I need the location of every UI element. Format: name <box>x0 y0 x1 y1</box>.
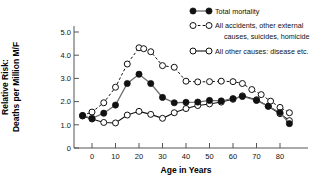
data-point <box>230 79 236 85</box>
data-point <box>148 80 154 86</box>
x-tick-label: 70 <box>252 152 260 161</box>
data-point <box>171 100 177 106</box>
y-tick-label: 1.0 <box>61 121 71 130</box>
data-point <box>112 102 118 108</box>
data-point <box>195 79 201 85</box>
data-point <box>239 81 245 87</box>
data-point <box>160 115 166 121</box>
x-tick-label: 10 <box>111 152 119 161</box>
data-point <box>136 108 142 114</box>
data-point <box>258 92 264 98</box>
x-tick-label: 30 <box>158 152 166 161</box>
legend-open-circle-marker <box>190 23 196 29</box>
legend-open-circle-marker <box>206 23 212 29</box>
data-point <box>239 93 245 99</box>
x-tick-label: 0 <box>90 152 94 161</box>
data-point <box>101 119 107 125</box>
data-point <box>230 95 236 101</box>
x-tick-label: 50 <box>205 152 213 161</box>
data-point <box>253 97 259 103</box>
data-point <box>183 78 189 84</box>
data-point <box>101 110 107 116</box>
data-point <box>124 80 130 86</box>
x-tick-label: 40 <box>182 152 190 161</box>
legend-label-line2: causes, suicides, homicide <box>224 32 310 41</box>
data-point <box>148 49 154 55</box>
legend-open-circle-marker <box>206 48 212 54</box>
data-point <box>286 110 292 116</box>
chart-root: 01.02.03.04.05.001020304050607080Age in … <box>0 0 322 186</box>
data-point <box>124 61 130 67</box>
data-point <box>113 120 119 126</box>
x-tick-label: 60 <box>229 152 237 161</box>
y-axis-ticks: 01.02.03.04.05.0 <box>61 28 79 153</box>
data-point <box>171 64 177 70</box>
data-point <box>206 97 212 103</box>
y-axis-title: Relative Risk:Deaths per Million M/F <box>0 42 21 132</box>
legend: Total mortalityAll accidents, other exte… <box>190 7 310 56</box>
data-point <box>218 78 224 84</box>
legend-item-1[interactable]: Total mortality <box>190 7 260 16</box>
legend-filled-circle-marker <box>190 8 196 14</box>
data-point <box>113 84 119 90</box>
y-tick-label: 4.0 <box>61 51 71 60</box>
y-tick-label: 0 <box>67 144 71 153</box>
legend-label: All other causes: disease etc. <box>215 47 309 56</box>
data-point <box>101 100 107 106</box>
data-point <box>159 94 165 100</box>
data-point <box>160 63 166 69</box>
legend-item-3[interactable]: All other causes: disease etc. <box>190 47 309 56</box>
data-point <box>124 112 130 118</box>
data-point <box>195 99 201 105</box>
legend-item-2[interactable]: All accidents, other externalcauses, sui… <box>190 21 310 40</box>
data-point <box>171 110 177 116</box>
data-point <box>277 109 283 115</box>
y-axis-title-line1: Relative Risk: <box>0 59 10 115</box>
y-tick-label: 3.0 <box>61 74 71 83</box>
data-point <box>89 115 95 121</box>
x-axis-title: Age in Years <box>161 165 212 175</box>
data-point <box>183 99 189 105</box>
axes <box>74 26 308 148</box>
legend-label: All accidents, other external <box>215 21 304 30</box>
y-axis-title-line2: Deaths per Million M/F <box>11 42 21 132</box>
y-tick-label: 2.0 <box>61 97 71 106</box>
data-point <box>141 46 147 52</box>
data-point <box>136 71 142 77</box>
data-point <box>89 109 95 115</box>
y-tick-label: 5.0 <box>61 28 71 37</box>
data-point <box>80 112 86 118</box>
relative-risk-line-chart: 01.02.03.04.05.001020304050607080Age in … <box>0 0 322 186</box>
data-point <box>148 111 154 117</box>
data-point <box>265 103 271 109</box>
data-point <box>183 106 189 112</box>
data-point <box>218 98 224 104</box>
data-point <box>207 79 213 85</box>
data-point <box>249 87 255 93</box>
x-tick-label: 80 <box>276 152 284 161</box>
x-tick-label: 20 <box>135 152 143 161</box>
data-point <box>286 121 292 127</box>
legend-open-circle-marker <box>190 48 196 54</box>
legend-label: Total mortality <box>215 7 260 16</box>
x-axis-ticks: 01020304050607080 <box>90 143 284 161</box>
legend-filled-circle-marker <box>206 8 212 14</box>
